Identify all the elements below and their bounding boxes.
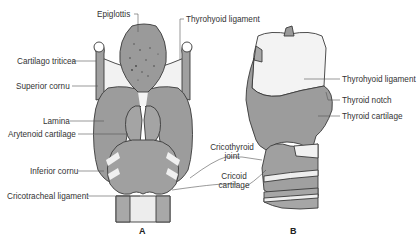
label-thyrohyoid-ligament-a: Thyrohyoid ligament: [186, 15, 260, 24]
label-cricoid-cartilage: Cricoid cartilage: [204, 172, 264, 190]
cricoid-cartilage-a: [107, 140, 178, 195]
label-cricothyroid-joint: Cricothyroid joint: [202, 143, 262, 161]
label-cricothyroid-joint-line1: Cricothyroid: [202, 143, 262, 152]
label-cricoid-cartilage-line1: Cricoid: [204, 172, 264, 181]
label-superior-cornu: Superior cornu: [16, 82, 70, 91]
label-cricoid-cartilage-line2: cartilage: [204, 181, 264, 190]
label-cricothyroid-joint-line2: joint: [202, 152, 262, 161]
panel-label-b: B: [290, 226, 297, 236]
label-cartilago-triticea: Cartilago triticea: [17, 57, 76, 66]
label-arytenoid-cartilage: Arytenoid cartilage: [8, 130, 76, 139]
label-thyroid-cartilage: Thyroid cartilage: [342, 112, 403, 121]
panel-label-a: A: [139, 226, 146, 236]
cartilago-triticea-left: [94, 42, 104, 52]
label-thyroid-notch: Thyroid notch: [342, 96, 392, 105]
cartilago-triticea-right: [182, 42, 192, 52]
label-cricotracheal-ligament: Cricotracheal ligament: [7, 192, 88, 201]
label-thyrohyoid-ligament-b: Thyrohyoid ligament: [342, 75, 416, 84]
label-lamina: Lamina: [43, 117, 70, 126]
thyrohyoid-ligament-b: [252, 32, 326, 96]
trachea-a: [116, 196, 170, 222]
label-epiglottis: Epiglottis: [97, 10, 130, 19]
label-inferior-cornu: Inferior cornu: [30, 167, 78, 176]
